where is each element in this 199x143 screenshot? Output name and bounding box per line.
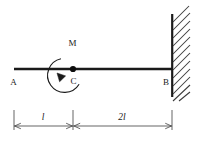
diagram-canvas: M C A B l 2l (0, 0, 199, 143)
dimension-label-right: 2l (118, 112, 126, 122)
dimension-label-left: l (42, 112, 45, 122)
label-C: C (70, 76, 76, 86)
label-B: B (163, 77, 169, 87)
label-M: M (68, 38, 76, 48)
wall-hatching (173, 6, 190, 101)
beam-diagram-figure: M C A B l 2l (0, 0, 199, 143)
point-c-marker (70, 66, 76, 72)
moment-arrowhead (57, 73, 66, 82)
dimension-group (14, 110, 172, 130)
label-A: A (10, 77, 17, 87)
fixed-support-wall (172, 6, 190, 101)
